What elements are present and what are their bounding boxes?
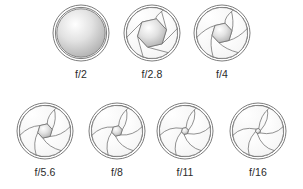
aperture-diagram-canvas — [0, 0, 303, 189]
iris-opening — [256, 129, 261, 134]
aperture-f-11 — [157, 103, 213, 159]
aperture-label: f/16 — [249, 166, 267, 178]
aperture-f-2 — [53, 5, 109, 61]
aperture-f-4 — [194, 5, 250, 61]
aperture-f-stop-diagram: f/2f/2.8f/4f/5.6f/8f/11f/16 — [0, 0, 303, 189]
aperture-f-8 — [89, 103, 145, 159]
aperture-label: f/5.6 — [35, 166, 56, 178]
aperture-f-5-6 — [17, 103, 73, 159]
iris-opening — [182, 128, 189, 135]
aperture-label: f/8 — [111, 166, 123, 178]
aperture-label: f/2 — [75, 68, 87, 80]
aperture-f-2-8 — [124, 5, 180, 61]
aperture-label: f/11 — [176, 166, 193, 178]
aperture-label: f/2.8 — [142, 68, 163, 80]
aperture-label: f/4 — [216, 68, 228, 80]
aperture-f-16 — [230, 103, 286, 159]
